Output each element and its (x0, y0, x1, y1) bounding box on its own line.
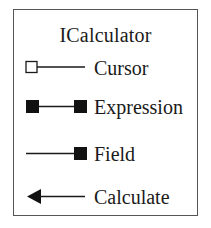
legend-title: ICalculator (14, 23, 197, 47)
arrow-left-icon (14, 185, 94, 209)
legend-label-expression: Expression (94, 95, 183, 119)
filled-square-both-ends-line-icon (14, 95, 94, 119)
open-square-line-icon (14, 56, 94, 80)
line-filled-square-end-icon (14, 142, 94, 166)
legend-box: ICalculator Cursor Expression Field Calc… (13, 9, 198, 216)
legend-label-field: Field (94, 142, 135, 166)
legend-item-field: Field (14, 142, 197, 166)
legend-item-expression: Expression (14, 95, 197, 119)
legend-label-cursor: Cursor (94, 56, 148, 80)
legend-item-calculate: Calculate (14, 185, 197, 209)
legend-label-calculate: Calculate (94, 185, 170, 209)
legend-item-cursor: Cursor (14, 56, 197, 80)
